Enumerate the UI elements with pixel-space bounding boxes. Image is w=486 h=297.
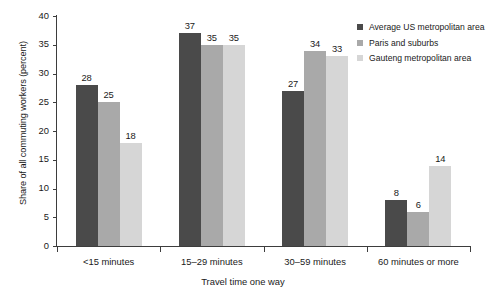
x-tick-label: 60 minutes or more bbox=[378, 256, 459, 267]
legend-swatch-icon bbox=[357, 55, 363, 61]
y-tick-label: 35 bbox=[23, 38, 49, 49]
legend-item: Paris and suburbs bbox=[357, 38, 485, 49]
x-tick-mark bbox=[264, 247, 265, 252]
y-tick-label: 40 bbox=[23, 10, 49, 21]
legend-item-label: Average US metropolitan area bbox=[369, 22, 484, 32]
bar-value-label: 35 bbox=[207, 32, 217, 43]
y-tick-label: 10 bbox=[23, 182, 49, 193]
bar: 37 bbox=[179, 33, 201, 246]
bar-value-label: 28 bbox=[81, 72, 91, 83]
y-tick-mark bbox=[53, 189, 57, 190]
bar: 8 bbox=[385, 200, 407, 246]
bar: 25 bbox=[98, 102, 120, 246]
legend-swatch-icon bbox=[357, 24, 363, 30]
legend-item: Gauteng metropolitan area bbox=[357, 53, 485, 64]
y-tick-label: 0 bbox=[23, 240, 49, 251]
y-tick-label: 25 bbox=[23, 96, 49, 107]
legend-item-label: Gauteng metropolitan area bbox=[369, 53, 471, 63]
bar-value-label: 27 bbox=[288, 78, 298, 89]
y-tick-mark bbox=[53, 74, 57, 75]
legend-item-label: Paris and suburbs bbox=[369, 38, 438, 48]
legend-item: Average US metropolitan area bbox=[357, 22, 485, 33]
x-tick-label: 30–59 minutes bbox=[284, 256, 346, 267]
bar-value-label: 18 bbox=[125, 130, 135, 141]
bar: 33 bbox=[326, 56, 348, 246]
y-tick-mark bbox=[53, 131, 57, 132]
bar-chart: Share of all commuting workers (percent)… bbox=[0, 0, 486, 297]
bar: 14 bbox=[429, 166, 451, 247]
x-tick-label: <15 minutes bbox=[83, 256, 134, 267]
bar: 35 bbox=[201, 45, 223, 246]
y-tick-mark bbox=[53, 217, 57, 218]
y-tick-mark bbox=[53, 45, 57, 46]
x-tick-label: 15–29 minutes bbox=[181, 256, 243, 267]
y-tick-label: 30 bbox=[23, 67, 49, 78]
x-tick-mark bbox=[367, 247, 368, 252]
legend: Average US metropolitan areaParis and su… bbox=[357, 22, 485, 69]
bar: 28 bbox=[76, 85, 98, 246]
bar: 18 bbox=[120, 143, 142, 247]
x-tick-mark bbox=[57, 247, 58, 252]
bar-value-label: 33 bbox=[332, 43, 342, 54]
bar-value-label: 14 bbox=[435, 153, 445, 164]
y-tick-label: 5 bbox=[23, 211, 49, 222]
bar-value-label: 35 bbox=[229, 32, 239, 43]
bar: 35 bbox=[223, 45, 245, 246]
bar-value-label: 34 bbox=[310, 38, 320, 49]
x-tick-mark bbox=[470, 247, 471, 252]
bar-value-label: 25 bbox=[103, 89, 113, 100]
y-tick-label: 20 bbox=[23, 125, 49, 136]
bar: 27 bbox=[282, 91, 304, 246]
bar-value-label: 37 bbox=[185, 20, 195, 31]
y-tick-label: 15 bbox=[23, 153, 49, 164]
bar: 6 bbox=[407, 212, 429, 247]
x-axis-title: Travel time one way bbox=[0, 276, 486, 287]
legend-swatch-icon bbox=[357, 40, 363, 46]
x-tick-mark bbox=[160, 247, 161, 252]
bar: 34 bbox=[304, 51, 326, 247]
bar-value-label: 6 bbox=[416, 199, 421, 210]
y-tick-mark bbox=[53, 102, 57, 103]
y-tick-mark bbox=[53, 16, 57, 17]
bar-value-label: 8 bbox=[394, 187, 399, 198]
y-tick-mark bbox=[53, 160, 57, 161]
